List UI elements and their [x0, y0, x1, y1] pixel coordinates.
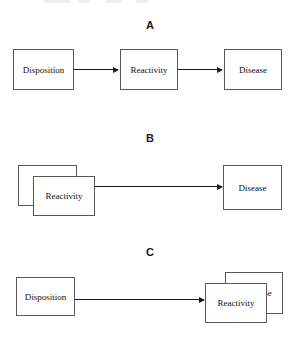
node-label: Reactivity [131, 65, 168, 75]
node-label: Reactivity [46, 191, 83, 201]
node-disease-b: Disease [223, 165, 282, 210]
node-reactivity-a: Reactivity [120, 49, 178, 90]
node-label: Disease [239, 65, 267, 75]
node-label: Disposition [23, 65, 65, 75]
node-disease-a: Disease [224, 49, 282, 90]
panel-label-c: C [146, 247, 154, 258]
arrow-disposition-to-reactivity-c [75, 299, 204, 300]
panel-label-a: A [146, 20, 154, 31]
node-label: Disease [239, 183, 267, 193]
node-label: Reactivity [218, 298, 255, 308]
panel-label-b: B [146, 133, 154, 144]
node-disposition-a: Disposition [13, 49, 74, 90]
node-reactivity-b: Reactivity [33, 176, 95, 216]
node-label: Disposition [25, 292, 67, 302]
node-reactivity-c: Reactivity [205, 283, 267, 323]
cropped-caption-artifact [44, 0, 149, 3]
arrow-disposition-to-reactivity-a [74, 69, 118, 70]
arrow-reactivity-to-disease-b [95, 186, 222, 187]
figure-panels-abc: A Disposition Reactivity Disease B Dis R… [0, 0, 297, 338]
node-disposition-c: Disposition [16, 277, 75, 316]
arrow-reactivity-to-disease-a [178, 69, 222, 70]
